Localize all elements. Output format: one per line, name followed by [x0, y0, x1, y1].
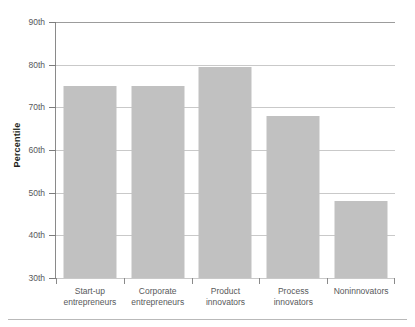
bar[interactable]: [267, 116, 320, 278]
category-label-line: entrepreneurs: [124, 297, 192, 308]
x-axis-tick: [56, 278, 57, 284]
plot-area: 30th40th50th60th70th80th90th: [56, 22, 395, 278]
y-axis-tick-label: 70th: [28, 102, 45, 112]
x-axis-category-label: Productinnovators: [192, 286, 260, 308]
category-label-line: Corporate: [124, 286, 192, 297]
x-axis-category-label: Noninnovators: [327, 286, 395, 297]
y-axis-tick-label: 40th: [28, 230, 45, 240]
y-axis-tick: [49, 278, 56, 279]
bar-slot: [56, 22, 124, 278]
x-axis-category-labels: Start-upentrepreneursCorporateentreprene…: [56, 286, 395, 316]
bar-chart: Percentile 30th40th50th60th70th80th90th …: [0, 0, 415, 327]
category-label-line: innovators: [259, 297, 327, 308]
x-axis-category-label: Corporateentrepreneurs: [124, 286, 192, 308]
category-label-line: Start-up: [56, 286, 124, 297]
bar-series: [56, 22, 395, 278]
y-axis-tick-label: 80th: [28, 60, 45, 70]
y-axis-tick: [49, 65, 56, 66]
bar-slot: [124, 22, 192, 278]
category-label-line: Noninnovators: [327, 286, 395, 297]
y-axis-tick: [49, 193, 56, 194]
x-axis-tick: [192, 278, 193, 284]
x-axis-category-label: Processinnovators: [259, 286, 327, 308]
category-label-line: Product: [192, 286, 260, 297]
category-label-line: entrepreneurs: [56, 297, 124, 308]
y-axis-tick: [49, 235, 56, 236]
bar-slot: [259, 22, 327, 278]
y-axis-tick: [49, 22, 56, 23]
category-label-line: innovators: [192, 297, 260, 308]
y-axis-title: Percentile: [12, 100, 22, 190]
x-axis-tick: [124, 278, 125, 284]
x-axis-category-label: Start-upentrepreneurs: [56, 286, 124, 308]
bar[interactable]: [199, 67, 252, 278]
y-axis-tick-label: 50th: [28, 188, 45, 198]
y-axis-tick: [49, 150, 56, 151]
y-axis-tick-label: 60th: [28, 145, 45, 155]
bar[interactable]: [335, 201, 388, 278]
category-label-line: Process: [259, 286, 327, 297]
bar[interactable]: [63, 86, 116, 278]
x-axis-tick: [259, 278, 260, 284]
bar-slot: [192, 22, 260, 278]
x-axis-tick: [327, 278, 328, 284]
bar-slot: [327, 22, 395, 278]
bar[interactable]: [131, 86, 184, 278]
y-axis-tick: [49, 107, 56, 108]
y-axis-tick-label: 30th: [28, 273, 45, 283]
bottom-divider: [8, 319, 407, 320]
y-axis-tick-label: 90th: [28, 17, 45, 27]
x-axis-ticks: [56, 278, 395, 284]
x-axis-tick: [394, 278, 395, 284]
